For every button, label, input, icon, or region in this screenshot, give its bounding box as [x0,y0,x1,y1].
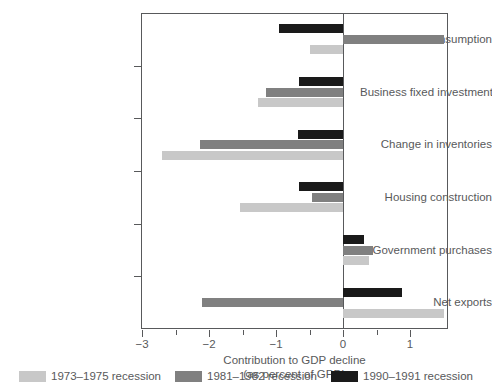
bar-2-0 [162,151,343,160]
y-axis-tick-3 [134,171,142,172]
bar-3-1 [312,193,343,202]
bar-0-0 [310,45,344,54]
bar-5-0 [343,309,444,318]
y-axis-tick-2 [134,118,142,119]
y-axis-tick-1 [134,66,142,67]
y-axis-label-4: Government purchases [360,244,492,256]
x-axis-tick-label-1: −2 [194,338,224,350]
legend-label-2: 1990–1991 recession [363,370,473,382]
bar-5-2 [343,288,402,297]
x-axis-tick--2 [209,330,210,337]
bar-0-2 [279,24,343,33]
legend-swatch-icon-0 [19,371,46,382]
bar-4-2 [343,235,364,244]
legend: 1973–1975 recession1981–1982 recession19… [0,368,492,384]
legend-label-1: 1981–1982 recession [207,370,317,382]
legend-swatch-icon-2 [331,371,358,382]
bar-1-1 [266,88,343,97]
x-axis-tick-label-4: 1 [395,338,425,350]
legend-item-0[interactable]: 1973–1975 recession [19,370,161,382]
plot-area [141,13,448,329]
bar-1-0 [258,98,343,107]
x-axis-tick--2.5 [176,330,177,335]
bar-3-2 [299,182,343,191]
legend-label-0: 1973–1975 recession [51,370,161,382]
x-axis-tick-0.5 [377,330,378,335]
x-axis-tick--3 [142,330,143,337]
bar-2-2 [298,130,343,139]
bar-4-1 [343,246,373,255]
x-axis-tick-label-3: 0 [328,338,358,350]
y-axis-tick-5 [134,276,142,277]
legend-item-2[interactable]: 1990–1991 recession [331,370,473,382]
bar-4-0 [343,256,369,265]
y-axis-tick-4 [134,224,142,225]
legend-swatch-icon-1 [175,371,202,382]
y-axis-label-3: Housing construction [360,191,492,203]
x-axis-tick--0.5 [310,330,311,335]
bar-5-1 [202,298,343,307]
x-axis-tick--1 [276,330,277,337]
x-axis-title-line1: Contribution to GDP decline [141,354,448,368]
recession-contribution-chart: Personal consumptionBusiness fixed inves… [0,0,492,392]
x-axis-tick-1 [410,330,411,337]
x-axis-tick-0 [343,330,344,337]
y-axis-label-1: Business fixed investment [360,86,492,98]
x-axis-tick-label-0: −3 [127,338,157,350]
zero-reference-line [343,13,344,329]
bar-0-1 [343,35,444,44]
x-axis-tick-label-2: −1 [261,338,291,350]
bar-1-2 [299,77,343,86]
bar-3-0 [240,203,343,212]
x-axis-tick--1.5 [243,330,244,335]
y-axis-label-2: Change in inventories [360,138,492,150]
legend-item-1[interactable]: 1981–1982 recession [175,370,317,382]
y-axis-label-5: Net exports [360,296,492,308]
bar-2-1 [200,140,343,149]
